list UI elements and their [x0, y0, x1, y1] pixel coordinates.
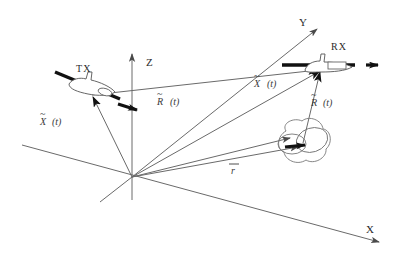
- x-axis-label: X: [366, 223, 374, 235]
- tx-label: TX: [76, 63, 92, 74]
- tx-velocity-arrow: [118, 104, 137, 110]
- coordinate-axes: [22, 29, 379, 242]
- target-velocity-arrow: [285, 145, 305, 147]
- rx-position-vector-accent: ~: [254, 70, 260, 81]
- rx-position-vector-argument: (t): [267, 78, 277, 90]
- axis-stub-line: [100, 177, 132, 202]
- diagram-canvas: Z Y X TX RX X ~ (t) R ~ (t) X ~ (t) R ~ …: [0, 0, 406, 260]
- target-position-vector-label: r: [229, 164, 239, 176]
- tx-position-vector-argument: (t): [52, 116, 62, 128]
- target-cloud: [278, 118, 331, 162]
- target-position-vector-line: [132, 147, 298, 177]
- target-cloud-lobe-right: [293, 124, 331, 157]
- tx-position-vector-line: [93, 97, 132, 177]
- rx-label: RX: [331, 41, 347, 52]
- y-axis-label: Y: [299, 16, 307, 28]
- vector-lines: [92, 70, 320, 177]
- target-position-vector-symbol: r: [231, 165, 235, 176]
- x-axis: [22, 145, 379, 242]
- x-axis-line: [22, 145, 379, 242]
- rx-position-vector-label: X ~ (t): [253, 70, 277, 90]
- bistatic-radar-geometry-figure: Z Y X TX RX X ~ (t) R ~ (t) X ~ (t) R ~ …: [0, 0, 406, 260]
- baseline-vector-accent: ~: [157, 88, 163, 99]
- baseline-vector-argument: (t): [170, 96, 180, 108]
- baseline-vector-label: R ~ (t): [156, 88, 180, 108]
- target-cloud-outline: [279, 118, 331, 162]
- rx-body-panel: [328, 62, 346, 69]
- tx-position-vector-label: X ~ (t): [39, 108, 62, 128]
- z-axis-label: Z: [146, 56, 153, 68]
- tx-position-vector-accent: ~: [40, 108, 46, 119]
- target-to-rx-vector-label: R ~ (t): [310, 89, 333, 109]
- target-to-rx-vector-accent: ~: [311, 89, 317, 100]
- receiver-aircraft: [282, 54, 378, 72]
- target-to-rx-vector-argument: (t): [323, 97, 333, 109]
